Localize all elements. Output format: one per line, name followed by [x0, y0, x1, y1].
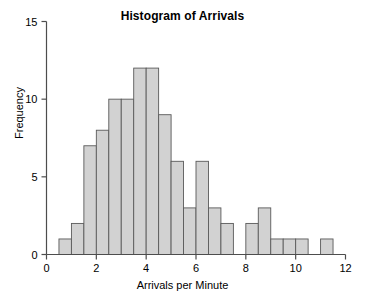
histogram-bar: [271, 239, 283, 255]
histogram-bar: [71, 223, 83, 254]
y-tick-label: 0: [31, 249, 37, 261]
histogram-bar: [196, 161, 208, 254]
histogram-bar: [258, 208, 270, 255]
histogram-bar: [221, 223, 233, 254]
histogram-figure: Histogram of Arrivals Frequency Arrivals…: [0, 0, 365, 306]
y-axis-ticks: 051015: [25, 16, 46, 261]
histogram-bar: [296, 239, 308, 255]
x-axis-ticks: 024681012: [43, 255, 351, 274]
y-tick-label: 10: [25, 93, 37, 105]
histogram-bar: [121, 99, 133, 254]
histogram-bar: [184, 208, 196, 255]
histogram-bar: [321, 239, 333, 255]
x-tick-label: 0: [43, 262, 49, 274]
histogram-bar: [208, 208, 220, 255]
histogram-bar: [109, 99, 121, 254]
x-tick-label: 6: [193, 262, 199, 274]
plot-area: 024681012 051015: [0, 0, 365, 306]
x-tick-label: 4: [143, 262, 149, 274]
histogram-bar: [134, 68, 146, 254]
histogram-bar: [96, 130, 108, 254]
x-tick-label: 10: [290, 262, 302, 274]
x-tick-label: 12: [339, 262, 351, 274]
histogram-bar: [59, 239, 71, 255]
x-tick-label: 2: [93, 262, 99, 274]
histogram-bar: [84, 146, 96, 255]
histogram-bar: [283, 239, 295, 255]
y-tick-label: 15: [25, 16, 37, 28]
x-tick-label: 8: [243, 262, 249, 274]
y-tick-label: 5: [31, 171, 37, 183]
histogram-bar: [146, 68, 158, 254]
histogram-bar: [246, 223, 258, 254]
histogram-bar: [171, 161, 183, 254]
histogram-bar: [159, 115, 171, 255]
bars-group: [59, 68, 333, 254]
